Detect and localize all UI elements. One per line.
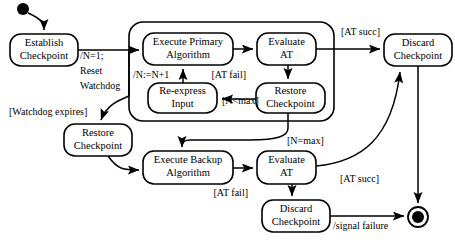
state-label-line1: Evaluate xyxy=(268,154,305,165)
edge-label-n-less-max: [N<max] xyxy=(222,95,259,106)
state-label-line2: AT xyxy=(280,167,293,178)
state-machine-diagram: Establish Checkpoint Execute Primary Alg… xyxy=(0,0,455,242)
final-state xyxy=(408,207,428,227)
edge-label-reset-watchdog-line3: Watchdog xyxy=(80,80,120,91)
state-execute-primary-algorithm[interactable]: Execute Primary Algorithm xyxy=(143,33,233,65)
state-restore-checkpoint-left[interactable]: Restore Checkpoint xyxy=(64,124,132,156)
state-label-line1: Re-express xyxy=(159,85,206,96)
state-label-line2: Checkpoint xyxy=(74,140,122,151)
edge-label-n-increment: /N:=N+1 xyxy=(133,69,169,80)
edge-label-at-fail-bottom: [AT fail] xyxy=(213,187,248,198)
edge-label-at-succ-bottom: [AT succ] xyxy=(340,173,379,184)
state-diagram-canvas: Establish Checkpoint Execute Primary Alg… xyxy=(0,0,455,242)
state-label-line2: Checkpoint xyxy=(394,50,442,61)
state-label-line2: AT xyxy=(280,49,293,60)
state-discard-checkpoint-bottom[interactable]: Discard Checkpoint xyxy=(262,200,330,232)
edge-label-watchdog-expires: [Watchdog expires] xyxy=(9,106,87,117)
state-label-line1: Execute Primary xyxy=(153,36,224,47)
edge-label-at-fail-top: [AT fail] xyxy=(211,69,246,80)
state-label-line1: Restore xyxy=(82,127,114,138)
state-discard-checkpoint-top[interactable]: Discard Checkpoint xyxy=(384,34,452,66)
edge-watchdog-expires-to-restore-checkpoint xyxy=(101,96,129,120)
state-label-line1: Discard xyxy=(280,203,313,214)
edge-label-at-succ-top: [AT succ] xyxy=(341,26,380,37)
edge-n-eq-max-to-execute-backup xyxy=(182,113,288,147)
edge-label-reset-watchdog-line1: /N=1; xyxy=(80,50,104,61)
state-re-express-input[interactable]: Re-express Input xyxy=(148,83,217,113)
state-label-line2: Checkpoint xyxy=(266,98,314,109)
state-label-line2: Algorithm xyxy=(166,167,210,178)
state-establish-checkpoint[interactable]: Establish Checkpoint xyxy=(10,34,78,66)
state-label-line1: Restore xyxy=(274,85,306,96)
state-label-line2: Input xyxy=(171,98,193,109)
state-label-line2: Checkpoint xyxy=(20,50,68,61)
state-restore-checkpoint-inner[interactable]: Restore Checkpoint xyxy=(256,83,325,113)
state-label-line1: Establish xyxy=(25,37,64,48)
state-execute-backup-algorithm[interactable]: Execute Backup Algorithm xyxy=(143,151,233,184)
edge-label-reset-watchdog-line2: Reset xyxy=(80,65,102,76)
edge-label-n-eq-max: [N=max] xyxy=(287,135,324,146)
state-label-line1: Execute Backup xyxy=(154,154,223,165)
edge-start-to-establish xyxy=(28,13,44,30)
initial-state-dot xyxy=(17,3,29,15)
state-label-line2: Checkpoint xyxy=(272,216,320,227)
state-label-line1: Discard xyxy=(402,37,435,48)
edge-restore-left-to-execute-backup xyxy=(108,156,139,170)
state-label-line1: Evaluate xyxy=(268,36,305,47)
state-evaluate-at-top[interactable]: Evaluate AT xyxy=(257,33,316,65)
edge-label-signal-failure: /signal failure xyxy=(333,220,389,231)
state-label-line2: Algorithm xyxy=(166,49,210,60)
state-evaluate-at-bottom[interactable]: Evaluate AT xyxy=(257,151,316,184)
